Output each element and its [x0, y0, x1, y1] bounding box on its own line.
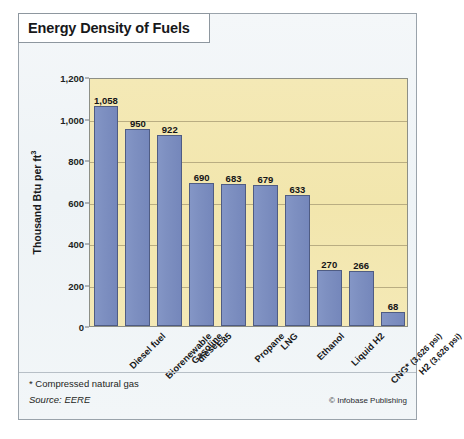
chart-title-plate: Energy Density of Fuels	[18, 13, 210, 43]
plot-area: 1,05895092269068367963327026668	[89, 78, 408, 327]
y-axis-tick-label: 1,200	[25, 73, 89, 84]
y-axis-unit-exponent: 3	[29, 151, 38, 155]
bar-value-label: 922	[162, 124, 178, 135]
bar	[285, 195, 310, 326]
bar-value-label: 690	[194, 172, 210, 183]
chart-area: Thousand Btu per ft3 02004006008001,0001…	[19, 44, 416, 389]
bar-value-label: 683	[226, 173, 242, 184]
bar	[125, 129, 150, 326]
page-title: Energy Density of Fuels	[28, 20, 190, 36]
bar	[189, 183, 214, 326]
bar	[349, 271, 374, 326]
y-axis-tick-label: 800	[25, 156, 89, 167]
chart-figure: Energy Density of Fuels Thousand Btu per…	[18, 13, 417, 420]
y-axis-tick-label: 1,000	[25, 114, 89, 125]
bar-value-label: 266	[353, 260, 369, 271]
bar	[94, 106, 119, 326]
bar	[381, 312, 406, 326]
bar-value-label: 270	[321, 259, 337, 270]
bar-value-label: 679	[258, 174, 274, 185]
source-note: Source: EERE	[29, 394, 90, 405]
bar	[221, 184, 246, 326]
x-axis-label: Ethanol	[315, 331, 347, 363]
bar-value-label: 68	[388, 301, 399, 312]
publisher-credit: © Infobase Publishing	[329, 396, 407, 405]
bar-value-label: 633	[289, 184, 305, 195]
y-axis-tick-label: 600	[25, 197, 89, 208]
bar-value-label: 1,058	[94, 95, 118, 106]
bar	[317, 270, 342, 326]
bar-value-label: 950	[130, 118, 146, 129]
x-axis-label: Liquid H2	[350, 331, 387, 368]
x-axis-label: Diesel fuel	[128, 331, 168, 371]
bar	[253, 185, 278, 326]
footnote: * Compressed natural gas	[29, 378, 139, 389]
y-axis-tick-label: 200	[25, 280, 89, 291]
chart-footer: * Compressed natural gas Source: EERE © …	[19, 372, 416, 419]
y-axis-tick-label: 400	[25, 239, 89, 250]
bar	[157, 135, 182, 326]
y-axis-tick-label: 0	[25, 322, 89, 333]
